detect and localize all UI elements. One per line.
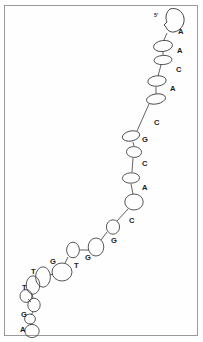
base-label-8-C: C [129,216,135,225]
base-label-16-A: A [20,325,26,334]
chain-node-11-T [67,242,80,258]
bond-layer [28,33,167,325]
node-layer [20,39,173,337]
base-label-5-G: G [142,135,148,144]
chain-bond-2 [158,65,161,76]
chain-bond-6 [132,158,133,172]
end-marker-label: 5' [154,12,158,18]
chain-node-5-G [121,129,140,142]
base-label-14-T: T [22,283,27,292]
chain-node-15-G [28,298,40,312]
chain-node-3-A [147,75,166,87]
base-label-3-A: A [170,84,176,93]
chain-node-13-T [36,267,51,287]
chain-bond-5 [133,142,134,146]
chain-bond-0 [164,33,167,40]
chain-bond-8 [117,209,128,221]
nucleotide-chain-diagram: 5'AACACGCACGGTGTTGA [0,0,203,342]
base-label-6-C: C [142,159,148,168]
chain-node-4-C [146,92,167,105]
base-label-15-G: G [21,310,27,319]
base-label-1-A: A [177,46,183,55]
chain-node-1-A [153,39,173,53]
chain-node-7-A [122,173,140,184]
figure-root: 5'AACACGCACGGTGTTGA [0,0,203,342]
base-label-layer: 5'AACACGCACGGTGTTGA [20,12,184,334]
base-label-7-A: A [142,183,148,192]
base-label-4-C: C [154,118,160,127]
base-label-10-G: G [85,253,91,262]
chain-bond-11 [65,257,68,263]
chain-bond-7 [131,184,133,194]
chain-node-6-C [126,146,142,158]
chain-node-8-C [125,194,143,210]
chain-bond-4 [137,104,149,131]
base-label-9-G: G [111,236,117,245]
base-label-0-A: A [178,27,184,36]
chain-node-2-C [154,55,173,65]
base-label-11-T: T [74,261,79,270]
chain-node-9-G [106,220,119,234]
chain-bond-9 [101,232,107,240]
chain-node-14-T [26,276,40,294]
chain-node-17 [25,324,39,337]
base-label-12-G: G [50,257,56,266]
base-label-2-C: C [176,65,182,74]
base-label-13-T: T [31,267,36,276]
